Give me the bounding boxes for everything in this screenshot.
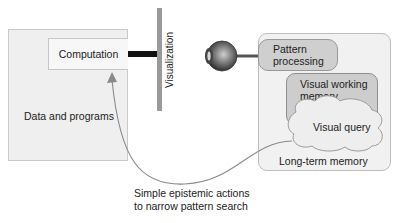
- caption-line2: to narrow pattern search: [134, 200, 250, 213]
- caption-line1: Simple epistemic actions: [134, 187, 250, 200]
- caption: Simple epistemic actions to narrow patte…: [134, 187, 250, 213]
- long-term-memory-label: Long-term memory: [279, 155, 368, 167]
- visual-query-label: Visual query: [313, 121, 371, 133]
